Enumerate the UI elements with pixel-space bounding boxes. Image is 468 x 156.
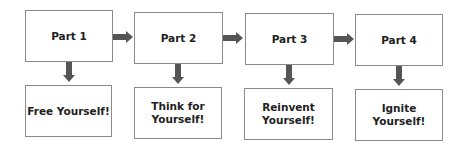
- down-arrow-icon: [63, 62, 75, 84]
- part-4-label: Part 4: [381, 34, 417, 47]
- right-arrow-icon: [334, 33, 355, 45]
- part-1-outcome-box: Free Yourself!: [25, 85, 112, 137]
- right-arrow-icon: [223, 32, 244, 44]
- part-3-label: Part 3: [272, 33, 308, 46]
- down-arrow-icon: [283, 65, 295, 87]
- part-1-outcome: Free Yourself!: [27, 105, 109, 118]
- part-4-box: Part 4: [355, 14, 443, 66]
- part-3-box: Part 3: [245, 13, 334, 65]
- part-3-outcome-box: Reinvent Yourself!: [244, 88, 333, 140]
- down-arrow-icon: [393, 66, 405, 88]
- down-arrow-icon: [172, 64, 184, 86]
- part-4-outcome: Ignite Yourself!: [370, 102, 428, 128]
- right-arrow-icon: [113, 31, 134, 43]
- part-1-box: Part 1: [25, 10, 113, 62]
- part-2-outcome: Think for Yourself!: [149, 100, 207, 126]
- part-3-outcome: Reinvent Yourself!: [259, 101, 318, 127]
- part-1-label: Part 1: [51, 30, 87, 43]
- part-2-outcome-box: Think for Yourself!: [134, 87, 222, 139]
- part-2-box: Part 2: [134, 12, 223, 64]
- part-2-label: Part 2: [161, 32, 197, 45]
- part-4-outcome-box: Ignite Yourself!: [355, 89, 443, 141]
